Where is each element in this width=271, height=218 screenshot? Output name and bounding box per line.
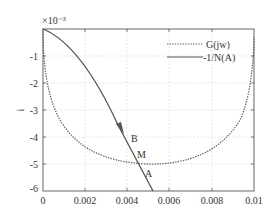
y-multiplier: ×10⁻³ — [42, 15, 66, 26]
y-tick: -5 — [30, 159, 38, 170]
annotation-m: M — [137, 149, 146, 160]
x-tick: 0.002 — [74, 195, 97, 206]
arrow-icon — [116, 122, 124, 134]
y-axis-label: i — [15, 108, 26, 111]
legend-label: G(jw) — [206, 39, 230, 51]
legend-label: -1/N(A) — [203, 52, 235, 64]
y-tick: -4 — [30, 132, 38, 143]
x-tick: 0.004 — [116, 195, 139, 206]
series-inv-na — [43, 29, 153, 191]
x-tick: 0 — [41, 195, 46, 206]
legend: G(jw) -1/N(A) — [167, 39, 235, 64]
y-tick: -2 — [30, 78, 38, 89]
x-tick: 0.01 — [245, 195, 263, 206]
y-tick: -1 — [30, 51, 38, 62]
annotation-a: A — [145, 168, 153, 179]
y-tick: -3 — [30, 105, 38, 116]
y-tick: -6 — [30, 183, 38, 194]
chart: ×10⁻³ -1 -2 -3 -4 -5 -6 0 0.002 0.004 0.… — [0, 0, 271, 218]
x-tick: 0.008 — [201, 195, 224, 206]
annotation-b: B — [131, 133, 138, 144]
x-tick: 0.006 — [158, 195, 181, 206]
